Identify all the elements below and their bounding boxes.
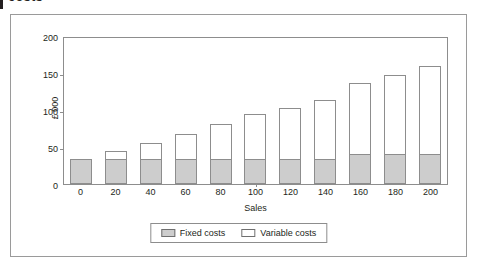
bar-segment-fixed-costs xyxy=(314,159,336,184)
figure-frame: £ 000 050100150200 020406080100120140160… xyxy=(10,14,467,257)
x-axis-ticks: 020406080100120140160180200 xyxy=(63,187,448,201)
gray-filled-swatch-icon xyxy=(161,229,175,237)
x-tick-mark xyxy=(256,183,257,187)
x-tick-label: 80 xyxy=(210,187,232,201)
legend-item-label: Fixed costs xyxy=(180,228,226,238)
x-tick-label: 200 xyxy=(420,187,442,201)
white-filled-swatch-icon xyxy=(241,229,255,237)
stacked-bar xyxy=(279,38,301,184)
bar-segment-variable-costs xyxy=(384,75,406,154)
bar-segment-variable-costs xyxy=(314,100,336,159)
x-tick-label: 120 xyxy=(280,187,302,201)
heading-accent-bar xyxy=(0,0,3,9)
bar-segment-fixed-costs xyxy=(140,159,162,184)
legend-item-label: Variable costs xyxy=(260,228,316,238)
y-tick-label: 100 xyxy=(18,107,64,117)
bar-segment-variable-costs xyxy=(175,134,197,159)
x-axis-label: Sales xyxy=(63,203,448,213)
stacked-bar xyxy=(349,38,371,184)
bar-segment-fixed-costs xyxy=(210,159,232,184)
x-tick-label: 160 xyxy=(350,187,372,201)
legend-item: Variable costs xyxy=(241,228,316,238)
stacked-bar xyxy=(384,38,406,184)
stacked-bar xyxy=(175,38,197,184)
bar-segment-fixed-costs xyxy=(419,154,441,184)
stacked-bar xyxy=(244,38,266,184)
x-tick-label: 20 xyxy=(105,187,127,201)
bar-segment-fixed-costs xyxy=(105,159,127,184)
bar-segment-fixed-costs xyxy=(70,159,92,184)
stacked-bar xyxy=(105,38,127,184)
stacked-bar xyxy=(314,38,336,184)
x-tick-label: 0 xyxy=(70,187,92,201)
stacked-bar xyxy=(210,38,232,184)
bar-segment-variable-costs xyxy=(210,124,232,159)
bar-segment-fixed-costs xyxy=(175,159,197,184)
x-tick-label: 140 xyxy=(315,187,337,201)
x-tick-label: 40 xyxy=(140,187,162,201)
bar-segment-variable-costs xyxy=(419,66,441,153)
bar-segment-variable-costs xyxy=(279,108,301,159)
heading-text: costs xyxy=(8,0,43,4)
y-tick-label: 200 xyxy=(18,33,64,43)
y-tick-label: 50 xyxy=(18,144,64,154)
bar-segment-fixed-costs xyxy=(244,159,266,184)
bar-segment-fixed-costs xyxy=(384,154,406,184)
cut-off-heading: costs xyxy=(0,0,481,9)
bar-segment-fixed-costs xyxy=(279,159,301,184)
x-tick-label: 60 xyxy=(175,187,197,201)
stacked-bar xyxy=(70,38,92,184)
stacked-bar-chart: £ 000 050100150200 020406080100120140160… xyxy=(11,15,466,256)
x-tick-label: 100 xyxy=(245,187,267,201)
bar-segment-variable-costs xyxy=(244,114,266,159)
bar-segment-variable-costs xyxy=(140,143,162,159)
bar-segment-variable-costs xyxy=(349,83,371,154)
y-tick-label: 0 xyxy=(18,181,64,191)
bar-segment-fixed-costs xyxy=(349,154,371,184)
chart-legend: Fixed costsVariable costs xyxy=(150,223,327,243)
legend-item: Fixed costs xyxy=(161,228,226,238)
x-tick-label: 180 xyxy=(385,187,407,201)
bar-segment-variable-costs xyxy=(105,151,127,159)
stacked-bar xyxy=(419,38,441,184)
bar-group xyxy=(64,38,447,184)
stacked-bar xyxy=(140,38,162,184)
plot-area: 050100150200 xyxy=(63,37,448,185)
y-tick-label: 150 xyxy=(18,70,64,80)
